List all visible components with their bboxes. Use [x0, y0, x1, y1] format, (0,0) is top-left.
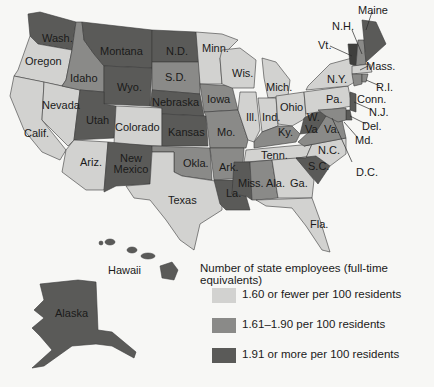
state-conn [352, 74, 362, 86]
label-alaska: Alaska [55, 308, 88, 319]
legend-label-low: 1.60 or fewer per 100 residents [242, 288, 401, 300]
label-ri: R.I. [376, 82, 393, 93]
label-dc: D.C. [356, 167, 378, 178]
state-ky [254, 126, 300, 148]
label-maine: Maine [358, 5, 388, 16]
label-ariz: Ariz. [80, 157, 102, 168]
label-texas: Texas [168, 195, 197, 206]
label-la: La. [226, 188, 241, 199]
legend-title: Number of state employees (full-time equ… [200, 262, 434, 286]
label-wis: Wis. [232, 68, 253, 79]
legend-item-high: 1.91 or more per 100 residents [242, 348, 399, 360]
label-utah: Utah [86, 115, 109, 126]
label-kansas: Kansas [168, 127, 205, 138]
label-nd: N.D. [166, 46, 188, 57]
label-colorado: Colorado [115, 122, 160, 133]
label-newmexico: New Mexico [113, 153, 149, 175]
label-ark: Ark. [219, 162, 239, 173]
label-oregon: Oregon [25, 56, 62, 67]
label-ill: Ill. [246, 112, 257, 123]
label-sd: S.D. [165, 72, 186, 83]
legend-label-high: 1.91 or more per 100 residents [242, 348, 399, 360]
label-wyo: Wyo. [117, 82, 142, 93]
label-minn: Minn. [202, 43, 229, 54]
label-ky: Ky. [278, 127, 293, 138]
label-ny: N.Y. [327, 74, 347, 85]
label-iowa: Iowa [207, 94, 230, 105]
label-idaho: Idaho [70, 73, 98, 84]
label-del: Del. [362, 121, 382, 132]
label-va: Va. [324, 124, 340, 135]
label-tenn: Tenn. [261, 150, 288, 161]
label-md: Md. [355, 135, 373, 146]
state-maine [362, 20, 386, 62]
label-ala: Ala. [266, 178, 285, 189]
label-mo: Mo. [217, 127, 235, 138]
label-nc: N.C. [318, 145, 340, 156]
label-nevada: Nevada [42, 100, 80, 111]
legend-swatch-low [212, 288, 236, 303]
legend-label-medium: 1.61–1.90 per 100 residents [242, 318, 385, 330]
label-wva-w: W. [307, 112, 320, 123]
state-alaska [32, 280, 136, 368]
label-mich: Mich. [266, 82, 292, 93]
legend-item-low: 1.60 or fewer per 100 residents [242, 288, 401, 300]
legend-swatch-medium [212, 318, 236, 333]
label-ga: Ga. [290, 178, 308, 189]
legend-item-medium: 1.61–1.90 per 100 residents [242, 318, 385, 330]
label-okla: Okla. [183, 158, 209, 169]
label-ind: Ind. [262, 112, 280, 123]
label-montana: Montana [100, 46, 143, 57]
label-vt: Vt. [318, 40, 331, 51]
label-mass: Mass. [366, 61, 395, 72]
label-fla: Fla. [310, 219, 328, 230]
label-pa: Pa. [326, 94, 343, 105]
label-wash: Wash. [42, 33, 73, 44]
label-nh: N.H. [332, 21, 354, 32]
label-hawaii: Hawaii [108, 265, 141, 276]
label-sc: S.C. [308, 161, 329, 172]
label-ohio: Ohio [280, 102, 303, 113]
state-del [346, 110, 352, 120]
state-nj [350, 92, 356, 112]
label-miss: Miss. [238, 178, 264, 189]
label-calif: Calif. [24, 128, 49, 139]
label-nebraska: Nebraska [152, 97, 199, 108]
legend-swatch-high [212, 348, 236, 363]
label-wva-va: Va [305, 124, 318, 135]
label-conn: Conn. [357, 94, 386, 105]
label-nj: N.J. [369, 107, 389, 118]
